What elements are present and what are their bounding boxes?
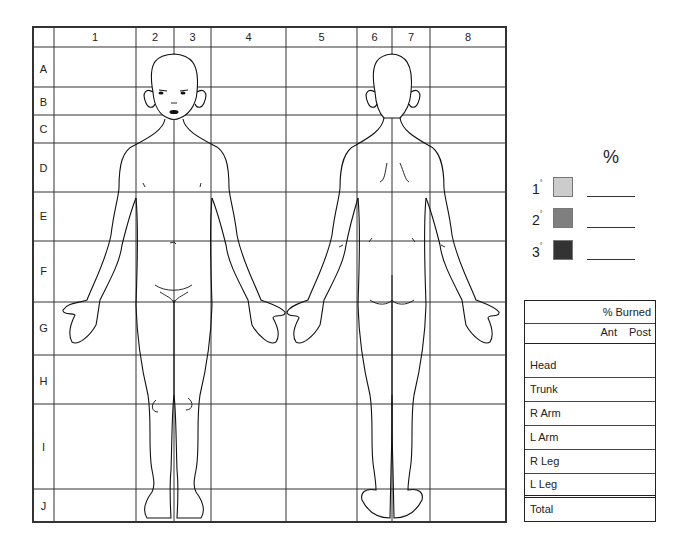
table-header-post: Post [629, 326, 651, 338]
legend-swatch-2nd-degree [553, 208, 573, 228]
legend-swatch-3rd-degree [553, 240, 573, 260]
column-label-5: 5 [286, 31, 357, 43]
column-label-1: 1 [54, 31, 136, 43]
row-label-i: I [33, 441, 54, 453]
legend-label-1st-degree: 1° [532, 181, 543, 197]
table-row-label: L Arm [530, 431, 558, 443]
column-label-6: 6 [357, 31, 392, 43]
row-label-j: J [33, 500, 54, 512]
column-label-7: 7 [392, 31, 430, 43]
legend-blank-2nd-degree[interactable] [587, 227, 635, 228]
legend-swatch-1st-degree [553, 177, 573, 197]
table-row-label: Head [530, 359, 556, 371]
row-label-c: C [33, 123, 54, 135]
table-header-ant: Ant [600, 326, 617, 338]
table-row-label: Trunk [530, 383, 558, 395]
table-header-percent-burned: % Burned [603, 306, 651, 318]
legend-label-2nd-degree: 2° [532, 212, 543, 228]
table-subheader-row: Ant Post [525, 323, 655, 344]
table-row-total[interactable]: Total [525, 499, 655, 520]
row-label-e: E [33, 210, 54, 222]
row-label-h: H [33, 375, 54, 387]
legend-label-3rd-degree: 3° [532, 244, 543, 260]
column-label-4: 4 [211, 31, 286, 43]
table-row-label: Total [530, 503, 553, 515]
table-row-label: R Leg [530, 455, 559, 467]
column-label-3: 3 [174, 31, 211, 43]
legend-blank-1st-degree[interactable] [587, 196, 635, 197]
table-row-head[interactable]: Head [525, 344, 655, 378]
table-row-r-leg[interactable]: R Leg [525, 450, 655, 474]
row-label-f: F [33, 265, 54, 277]
posterior-body-figure [287, 54, 499, 518]
grid-lines [33, 27, 506, 522]
legend-blank-3rd-degree[interactable] [587, 259, 635, 260]
column-label-2: 2 [136, 31, 174, 43]
row-label-b: B [33, 96, 54, 108]
row-label-a: A [33, 63, 54, 75]
table-row-label: R Arm [530, 407, 561, 419]
percent-burned-table: % Burned Ant Post Head Trunk R Arm L Arm… [524, 300, 656, 522]
legend-title: % [603, 147, 619, 168]
row-label-d: D [33, 162, 54, 174]
table-row-trunk[interactable]: Trunk [525, 378, 655, 402]
table-row-label: L Leg [530, 478, 557, 490]
table-row-l-arm[interactable]: L Arm [525, 426, 655, 450]
table-row-r-arm[interactable]: R Arm [525, 402, 655, 426]
table-header-row: % Burned [525, 301, 655, 324]
column-label-8: 8 [430, 31, 506, 43]
row-label-g: G [33, 322, 54, 334]
table-row-l-leg[interactable]: L Leg [525, 474, 655, 498]
